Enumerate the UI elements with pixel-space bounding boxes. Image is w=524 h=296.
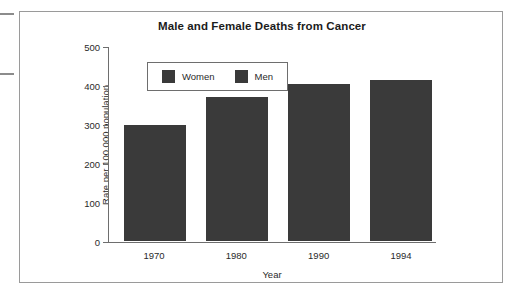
page-frame: Male and Female Deaths from Cancer Rate … <box>19 11 503 283</box>
bar-slot <box>288 47 350 241</box>
legend-swatch-icon-women <box>162 70 175 83</box>
scan-artifact-mark-top <box>0 13 14 15</box>
bar-1970[interactable] <box>124 125 186 241</box>
x-axis-title: Year <box>108 269 436 280</box>
x-tick-label-1994: 1994 <box>370 250 432 261</box>
plot-area: 500 400 300 200 100 0 <box>108 47 436 243</box>
legend-item-men: Men <box>235 70 273 83</box>
chart-title: Male and Female Deaths from Cancer <box>20 20 504 32</box>
y-tick-300 <box>103 125 109 126</box>
bar-1994[interactable] <box>370 80 432 241</box>
chart-figure: Male and Female Deaths from Cancer Rate … <box>20 12 504 284</box>
legend-swatch-icon-men <box>235 70 248 83</box>
chart-legend: Women Men <box>147 62 288 91</box>
y-tick-label-400: 400 <box>84 81 100 92</box>
x-tick-label-1990: 1990 <box>288 250 350 261</box>
y-tick-label-0: 0 <box>95 237 100 248</box>
y-tick-label-500: 500 <box>84 42 100 53</box>
bar-slot <box>370 47 432 241</box>
x-axis-tick-labels: 1970 1980 1990 1994 <box>109 243 436 261</box>
y-tick-100 <box>103 203 109 204</box>
y-tick-200 <box>103 164 109 165</box>
x-tick-label-1980: 1980 <box>205 250 267 261</box>
bar-1980[interactable] <box>206 97 268 241</box>
legend-label-men: Men <box>255 71 273 82</box>
y-tick-label-300: 300 <box>84 120 100 131</box>
y-tick-400 <box>103 86 109 87</box>
scan-artifact-mark-bottom <box>0 73 14 75</box>
legend-item-women: Women <box>162 70 215 83</box>
bar-1990[interactable] <box>288 84 350 241</box>
legend-label-women: Women <box>182 71 215 82</box>
y-tick-500 <box>103 47 109 48</box>
y-tick-label-200: 200 <box>84 159 100 170</box>
plot-wrapper: Rate per 100,000 population 500 400 300 … <box>108 47 436 243</box>
y-tick-label-100: 100 <box>84 198 100 209</box>
x-tick-label-1970: 1970 <box>123 250 185 261</box>
